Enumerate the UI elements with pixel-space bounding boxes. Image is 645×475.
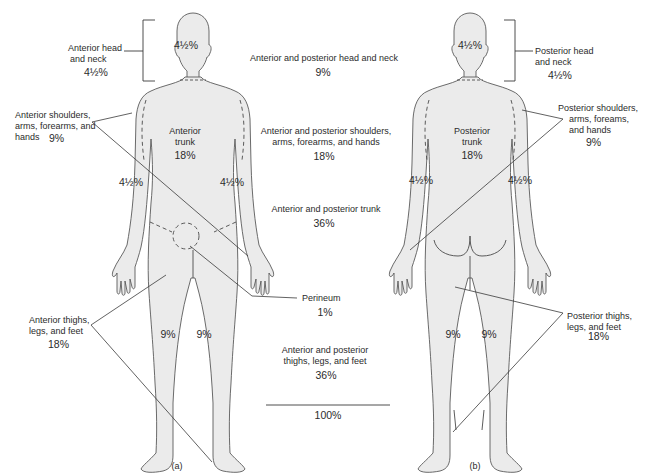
summary-head-neck-label: Anterior and posterior head and neck [250, 53, 398, 64]
summary-shoulders-label: Anterior and posterior shoulders, arms, … [261, 126, 392, 148]
summary-total-value: 100% [315, 409, 342, 421]
anterior-right-leg-value: 9% [196, 328, 211, 340]
posterior-head-neck-label: Posterior head and neck [535, 46, 594, 68]
posterior-thighs-value: 18% [588, 330, 609, 342]
summary-thighs-value: 36% [315, 369, 336, 381]
posterior-trunk-label: Posterior trunk [454, 126, 490, 148]
rule-of-nines-figure: Anterior head and neck 4½% Anterior shou… [0, 0, 645, 475]
panel-a-caption: (a) [172, 460, 183, 472]
label-line: and neck [40, 54, 122, 65]
anterior-shoulders-value: 9% [49, 132, 64, 144]
label-line: trunk [454, 137, 490, 148]
posterior-shoulders-value: 9% [586, 136, 601, 148]
label-line: legs, and feet [29, 326, 90, 337]
anterior-trunk-value: 18% [174, 149, 195, 161]
anterior-right-arm-value: 4½% [220, 176, 244, 188]
label-line: arms, forearms, and [15, 121, 96, 132]
label-line: Posterior [454, 126, 490, 137]
label-line: and neck [535, 57, 594, 68]
label-line: Anterior shoulders, [15, 110, 96, 121]
summary-trunk-label: Anterior and posterior trunk [271, 204, 380, 215]
posterior-right-leg-value: 9% [481, 328, 496, 340]
anterior-head-neck-value: 4½% [84, 66, 108, 78]
posterior-right-arm-value: 4½% [508, 174, 532, 186]
posterior-left-leg-value: 9% [445, 328, 460, 340]
anterior-thighs-value: 18% [48, 338, 69, 350]
label-line: Anterior thighs, [29, 315, 90, 326]
anterior-body [112, 13, 273, 472]
label-line: thighs, legs, and feet [282, 356, 369, 367]
posterior-head-neck-value: 4½% [548, 69, 572, 81]
label-line: Anterior and posterior [282, 345, 369, 356]
label-line: Anterior head [40, 43, 122, 54]
summary-perineum-label: Perineum [302, 293, 341, 304]
label-line: Posterior shoulders, [540, 103, 638, 114]
anterior-thighs-label: Anterior thighs, legs, and feet [29, 315, 90, 337]
posterior-left-arm-value: 4½% [409, 174, 433, 186]
anterior-trunk-label: Anterior trunk [169, 126, 201, 148]
summary-thighs-label: Anterior and posterior thighs, legs, and… [282, 345, 369, 367]
posterior-shoulders-label: Posterior shoulders, arms, foreams, and … [540, 103, 638, 136]
anterior-head-value: 4½% [174, 39, 198, 51]
label-line: and hands [540, 125, 638, 136]
posterior-head-value: 4½% [458, 39, 482, 51]
label-line: arms, forearms, and hands [261, 137, 392, 148]
summary-trunk-value: 36% [313, 217, 334, 229]
anterior-left-arm-value: 4½% [119, 176, 143, 188]
summary-shoulders-value: 18% [313, 150, 334, 162]
panel-b-caption: (b) [470, 460, 481, 472]
anterior-left-leg-value: 9% [160, 328, 175, 340]
label-line: Posterior thighs, [567, 311, 632, 322]
summary-perineum-value: 1% [317, 306, 332, 318]
label-line: Anterior and posterior shoulders, [261, 126, 392, 137]
summary-head-neck-value: 9% [315, 66, 330, 78]
label-line: Posterior head [535, 46, 594, 57]
anterior-head-neck-label: Anterior head and neck [40, 43, 122, 65]
posterior-trunk-value: 18% [461, 149, 482, 161]
label-line: Anterior [169, 126, 201, 137]
label-line: arms, foreams, [540, 114, 638, 125]
label-line: trunk [169, 137, 201, 148]
